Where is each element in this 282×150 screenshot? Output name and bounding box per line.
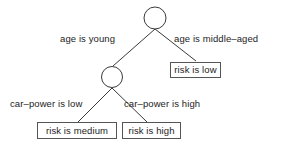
- inner-node-circle: [102, 67, 123, 88]
- root-node-circle: [144, 7, 166, 29]
- edge-label-car-power-is-high: car–power is high: [124, 99, 200, 109]
- edge-label-age-is-middle-aged: age is middle–aged: [174, 34, 258, 44]
- edge-label-car-power-is-low: car–power is low: [10, 99, 82, 109]
- edge-label-age-is-young: age is young: [60, 34, 115, 44]
- leaf-node-risk-is-medium: risk is medium: [37, 122, 117, 139]
- edge-root-to-inner: [113, 29, 155, 66]
- edge-inner-to-leaf-medium: [78, 88, 112, 122]
- leaf-node-risk-is-high: risk is high: [122, 122, 181, 139]
- decision-tree-diagram: age is young age is middle–aged car–powe…: [0, 0, 282, 150]
- leaf-node-risk-is-low: risk is low: [170, 62, 221, 78]
